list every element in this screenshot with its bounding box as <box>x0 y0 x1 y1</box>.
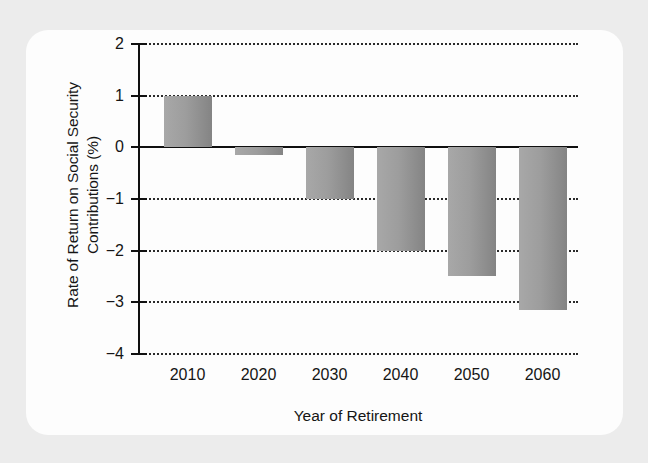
bar <box>519 147 567 310</box>
figure-root: Rate of Return on Social Security Contri… <box>0 0 648 463</box>
bars-group <box>138 44 578 354</box>
bar <box>448 147 496 276</box>
x-tick-label: 2020 <box>241 366 277 384</box>
x-tick-label: 2040 <box>383 366 419 384</box>
bar <box>235 147 283 155</box>
y-axis-title-line-1: Rate of Return on Social Security <box>63 82 83 308</box>
y-tick-label: −3 <box>106 293 124 311</box>
x-tick-label: 2050 <box>454 366 490 384</box>
x-tick-label: 2060 <box>525 366 561 384</box>
y-tick-label: −2 <box>106 242 124 260</box>
figure-card: Rate of Return on Social Security Contri… <box>26 30 623 435</box>
y-tick-label: 2 <box>115 35 124 53</box>
x-tick-label: 2030 <box>312 366 348 384</box>
y-tick-label: 1 <box>115 87 124 105</box>
y-tick-label: 0 <box>115 138 124 156</box>
bar-chart: Rate of Return on Social Security Contri… <box>26 30 623 435</box>
x-axis-title: Year of Retirement <box>138 407 578 425</box>
y-axis-title-line-2: Contributions (%) <box>83 136 103 254</box>
bar <box>306 147 354 199</box>
y-tick-label: −4 <box>106 345 124 363</box>
bar <box>164 96 212 148</box>
y-tick-label: −1 <box>106 190 124 208</box>
bar <box>377 147 425 250</box>
x-tick-label: 2010 <box>170 366 206 384</box>
y-axis-title: Rate of Return on Social Security Contri… <box>61 45 105 345</box>
plot-area: 210−1−2−3−4 201020202030204020502060 Yea… <box>138 44 578 354</box>
